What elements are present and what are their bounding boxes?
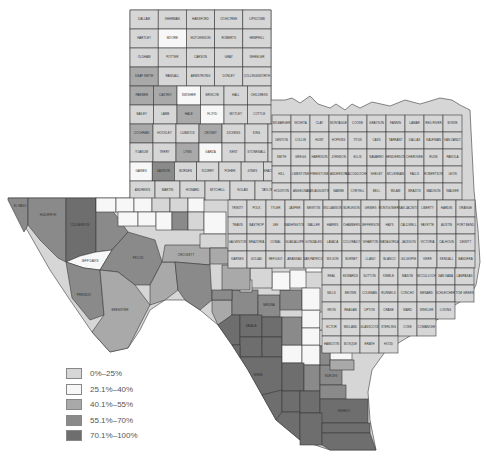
county-label: ELLIS (353, 155, 361, 159)
county-irion[interactable] (188, 212, 204, 230)
county-label: GLASSCOCK (360, 325, 379, 329)
county-label: CHEROKEE (406, 155, 423, 159)
county-val-verde-east[interactable] (212, 290, 232, 300)
county-val-verde[interactable] (175, 262, 212, 310)
county-label: GRAY (225, 55, 233, 59)
county-karnes[interactable] (302, 328, 320, 345)
county-label: KIMBLE (383, 274, 394, 278)
legend-label: 40.1%–55% (90, 400, 133, 409)
county-label: SAN JACINTO (399, 206, 419, 210)
county-jim-hogg[interactable] (282, 391, 300, 412)
county-label: BAILEY (136, 112, 147, 116)
county-label: SAN SABA (438, 274, 453, 278)
county-label: JOHNSON (331, 155, 346, 159)
county-dimmit[interactable] (240, 337, 262, 357)
county-reagan[interactable] (172, 212, 188, 230)
county-label: FANNIN (390, 121, 401, 125)
county-schleicher[interactable] (200, 234, 226, 248)
county-frio[interactable] (262, 317, 282, 337)
county-label: MIDLAND (344, 325, 358, 329)
county-label: CLAY (316, 121, 324, 125)
county-label: GOLIAD (251, 257, 263, 261)
county-jim-wells[interactable] (304, 365, 320, 391)
county-label: LAMPASAS (457, 274, 473, 278)
map-legend: 0%–25% 25.1%–40% 40.1%–55% 55.1%–70% 70.… (66, 366, 138, 444)
legend-swatch (66, 430, 82, 441)
county-glasscock[interactable] (170, 198, 188, 212)
county-label: KENT (229, 150, 237, 154)
county-label: WHARTON (363, 240, 378, 244)
county-hidalgo[interactable] (300, 413, 322, 445)
county-label: TRAVIS (232, 223, 243, 227)
label-crockett: CROCKETT (178, 253, 195, 257)
county-label: LAVACA (327, 240, 338, 244)
county-label: HILL (278, 172, 285, 176)
county-label: HUTCHINSON (191, 36, 211, 40)
county-crane[interactable] (138, 212, 156, 226)
county-cameron[interactable] (322, 433, 376, 450)
county-label: RUNNELS (381, 291, 395, 295)
county-upton[interactable] (156, 212, 172, 230)
county-label: BROWN (345, 291, 357, 295)
county-label: COLEMAN (362, 291, 377, 295)
county-label: DALLAS (409, 138, 421, 142)
county-label: SAN PATRICIO (303, 257, 324, 261)
county-label: DEAF SMITH (135, 74, 153, 78)
county-label: FLOYD (207, 112, 218, 116)
county-bexar[interactable] (280, 290, 302, 310)
county-kerr[interactable] (250, 268, 272, 288)
county-ward[interactable] (118, 212, 138, 226)
county-label: SAN AUGUSTINE (307, 189, 331, 193)
legend-swatch (66, 415, 82, 426)
county-label: HUNT (315, 138, 323, 142)
label-pecos: PECOS (133, 256, 144, 260)
county-label: COLORADO (343, 240, 361, 244)
county-label: OLDHAM (138, 55, 151, 59)
county-label: WICHITA (294, 121, 306, 125)
county-guadalupe[interactable] (302, 288, 320, 310)
county-duval[interactable] (282, 363, 304, 391)
county-label: COLLINGSWORTH (244, 74, 270, 78)
county-ector[interactable] (134, 198, 152, 212)
county-san-patricio[interactable] (330, 360, 354, 370)
county-mcmullen[interactable] (282, 345, 302, 363)
county-label: COMAL (270, 240, 281, 244)
county-brooks[interactable] (300, 391, 320, 413)
label-presidio: PRESIDIO (77, 293, 92, 297)
county-label: FREESTONE (310, 172, 328, 176)
county-edwards[interactable] (222, 265, 250, 290)
county-label: CROSBY (204, 131, 217, 135)
county-label: WILBARGER (272, 121, 291, 125)
county-label: CALHOUN (439, 240, 454, 244)
county-live-oak[interactable] (302, 345, 320, 365)
county-label: ROBERTSON (424, 172, 443, 176)
county-willacy[interactable] (322, 423, 370, 433)
county-label: WALKER (446, 189, 459, 193)
county-wilson[interactable] (302, 310, 320, 328)
county-kendall[interactable] (272, 272, 290, 290)
county-loving[interactable] (96, 198, 116, 212)
county-comal[interactable] (290, 270, 306, 288)
county-label: COMANCHE (418, 325, 436, 329)
county-tom-green[interactable] (204, 212, 226, 234)
county-winkler[interactable] (116, 198, 134, 212)
county-label: LYNN (184, 150, 192, 154)
county-zapata[interactable] (262, 390, 282, 420)
county-starr[interactable] (276, 412, 300, 440)
county-label: FALLS (410, 172, 419, 176)
county-label: BRISCOE (205, 93, 219, 97)
county-culberson[interactable] (66, 198, 96, 262)
label-nueces: NUECES (325, 374, 338, 378)
county-sterling[interactable] (188, 198, 204, 212)
county-kleberg[interactable] (320, 385, 346, 399)
county-label: LAMAR (409, 121, 420, 125)
county-midland[interactable] (152, 198, 170, 212)
county-label: HOWARD (186, 188, 200, 192)
county-presidio[interactable] (66, 262, 104, 320)
county-uvalde[interactable] (232, 290, 258, 315)
county-la-salle[interactable] (262, 337, 282, 357)
county-label: DENTON (275, 138, 288, 142)
county-label: KENDALL (440, 257, 454, 261)
county-label: TARRANT (389, 138, 403, 142)
county-atascosa[interactable] (282, 317, 302, 345)
